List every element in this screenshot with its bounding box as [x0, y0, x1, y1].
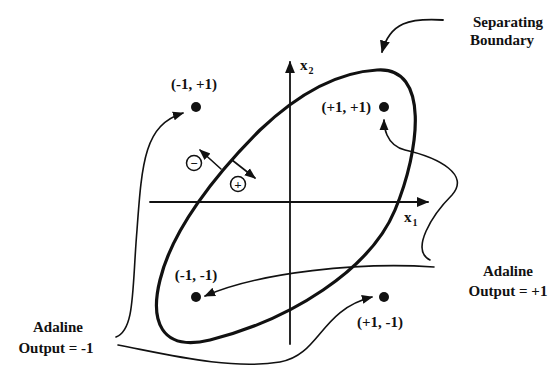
- svg-text:Output = -1: Output = -1: [18, 340, 93, 356]
- point-neg1-neg1: (-1, -1): [175, 267, 217, 302]
- adaline-boundary-diagram: x1 x2 − + (-1, +1) (+1, +1) (-1, -1) (+1…: [0, 0, 554, 379]
- svg-text:(+1, +1): (+1, +1): [321, 99, 371, 116]
- svg-text:Output = +1: Output = +1: [469, 283, 548, 299]
- x1-axis-label: x1: [404, 209, 418, 228]
- svg-text:Boundary: Boundary: [470, 32, 535, 48]
- separating-boundary-callout: Separating Boundary: [382, 14, 543, 52]
- svg-text:Separating: Separating: [473, 14, 544, 30]
- svg-text:(-1, +1): (-1, +1): [171, 76, 217, 93]
- point-pos1-pos1: (+1, +1): [321, 99, 389, 116]
- svg-text:−: −: [190, 156, 197, 171]
- svg-text:Adaline: Adaline: [33, 319, 83, 335]
- svg-text:(+1, -1): (+1, -1): [357, 314, 403, 331]
- point-pos1-neg1: (+1, -1): [357, 292, 403, 331]
- positive-region-marker: +: [231, 177, 246, 192]
- svg-text:Adaline: Adaline: [483, 263, 533, 279]
- svg-text:(-1, -1): (-1, -1): [175, 267, 217, 284]
- x2-axis-label: x2: [300, 57, 314, 76]
- output-neg-region: Adaline Output = -1: [18, 113, 372, 364]
- negative-region-marker: −: [187, 156, 202, 171]
- output-pos-region: Adaline Output = +1: [205, 120, 547, 299]
- point-neg1-pos1: (-1, +1): [171, 76, 217, 112]
- svg-text:+: +: [234, 177, 241, 192]
